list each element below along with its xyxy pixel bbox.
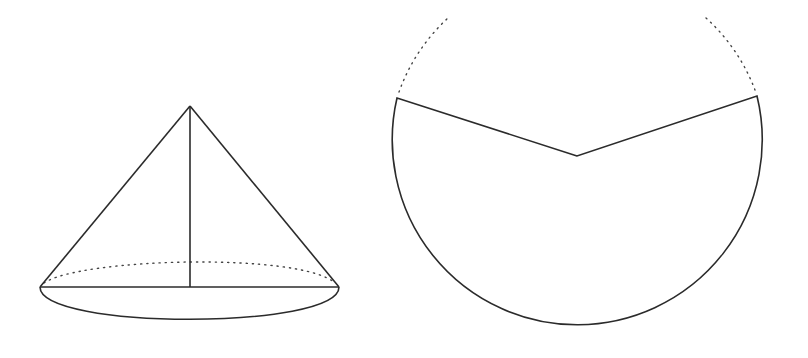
cone-base-visible-arc [40, 287, 339, 319]
sector-missing-arc-right [706, 18, 755, 90]
unrolled-sector [392, 18, 762, 325]
cone-slant-left [40, 106, 190, 287]
sector-outline [392, 96, 762, 325]
cone [40, 106, 339, 319]
sector-missing-arc-left [399, 18, 448, 92]
cone-slant-right [190, 106, 339, 287]
diagram-canvas [0, 0, 808, 358]
